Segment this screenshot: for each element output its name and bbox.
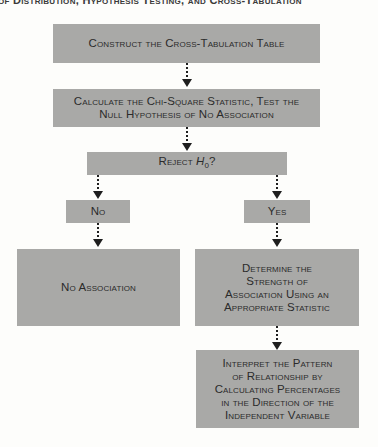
page-header: of Distribution, Hypothesis Testing, and… [0,0,378,6]
interpret-line: Calculating Percentages [215,383,341,396]
arrow-down-icon [272,223,282,249]
construct-table-box: Construct the Cross-Tabulation Table [53,24,320,63]
interpret-line: in the Direction of the [221,396,334,409]
h0-symbol: H0 [196,155,209,167]
interpret-pattern-box: Interpret the Pattern of Relationship by… [196,350,359,428]
no-association-label: No Association [61,281,136,294]
construct-table-label: Construct the Cross-Tabulation Table [89,37,285,50]
arrow-down-icon [93,223,103,249]
arrow-down-icon [182,63,192,89]
strength-line: Association Using an [225,288,329,301]
interpret-line: Independent Variable [225,409,330,422]
yes-label: Yes [268,205,287,218]
reject-h0-decision-box: Reject H0? [87,152,287,175]
yes-branch-box: Yes [244,200,310,223]
decision-label: Reject H0? [158,155,215,172]
no-branch-box: No [66,200,130,223]
interpret-line: Interpret the Pattern [223,357,333,370]
calculate-line-2: Null Hypothesis of No Association [99,108,274,121]
no-association-box: No Association [17,249,180,326]
arrow-down-icon [182,127,192,153]
calculate-chi-square-box: Calculate the Chi-Square Statistic, Test… [53,89,320,127]
arrow-down-icon [272,175,282,201]
decision-suffix: ? [209,155,216,167]
arrow-down-icon [272,326,282,352]
strength-line: Strength of [246,275,308,288]
interpret-line: of Relationship by [232,370,323,383]
determine-strength-box: Determine the Strength of Association Us… [195,249,359,326]
calculate-line-1: Calculate the Chi-Square Statistic, Test… [74,95,299,108]
no-label: No [91,205,106,218]
strength-line: Determine the [242,262,312,275]
decision-prefix: Reject [158,155,196,167]
arrow-down-icon [93,175,103,201]
strength-line: Appropriate Statistic [224,301,330,314]
